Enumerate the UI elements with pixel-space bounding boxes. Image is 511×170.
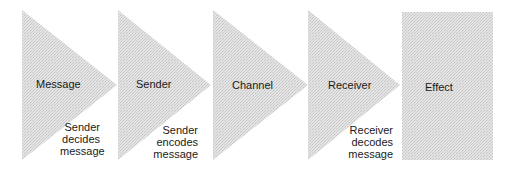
note-line: Receiver: [345, 124, 393, 136]
note-line: message: [150, 148, 198, 160]
note-receiver-decodes: Receiver decodes message: [345, 124, 393, 160]
stage-label-message: Message: [36, 78, 81, 90]
note-sender-decides: Sender decides message: [60, 121, 100, 157]
note-line: message: [60, 145, 100, 157]
stage-label-effect: Effect: [425, 81, 453, 93]
note-line: Sender: [60, 121, 100, 133]
note-sender-encodes: Sender encodes message: [150, 124, 198, 160]
stage-label-sender: Sender: [136, 78, 171, 90]
stage-label-channel: Channel: [232, 79, 273, 91]
note-line: decides: [60, 133, 100, 145]
communication-process-diagram: Message Sender Channel Receiver Effect S…: [0, 0, 511, 170]
note-line: message: [345, 148, 393, 160]
note-line: decodes: [345, 136, 393, 148]
stage-label-receiver: Receiver: [328, 79, 371, 91]
note-line: encodes: [150, 136, 198, 148]
note-line: Sender: [150, 124, 198, 136]
